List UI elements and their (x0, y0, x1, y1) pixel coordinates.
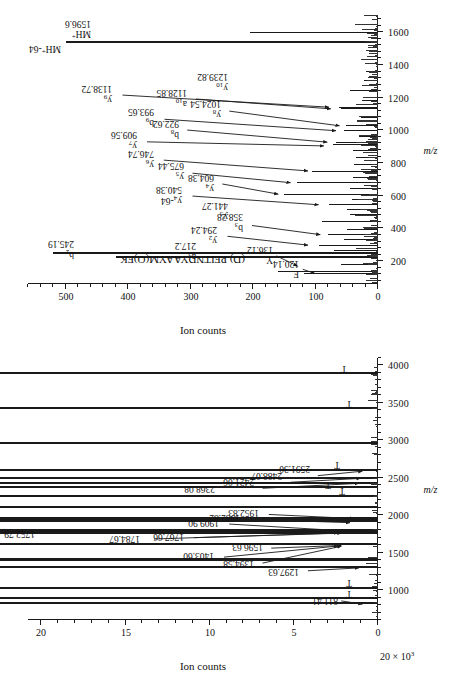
spectrum-noise-peak (376, 26, 378, 27)
x-axis-minor-tick (378, 208, 381, 209)
spectrum-noise-peak (373, 375, 378, 376)
spectrum-noise-peak (376, 251, 378, 252)
x-axis-minor-tick (378, 221, 381, 222)
x-axis-minor-tick (378, 84, 381, 85)
spectrum-noise-peak (366, 50, 378, 51)
x-axis-tick-label: 600 (391, 190, 407, 201)
spectrum-noise-peak (375, 236, 378, 237)
spectrum-noise-peak (375, 371, 378, 372)
spectrum-peak (339, 107, 378, 108)
x-axis-minor-tick (378, 559, 381, 560)
x-axis-minor-tick (378, 357, 381, 358)
annotation-arrow (271, 545, 341, 548)
spectrum-noise-peak (371, 182, 378, 183)
x-axis-minor-tick (378, 522, 381, 523)
peak-annotation-label: b8922.62 (152, 118, 178, 139)
spectrum-noise-peak (373, 478, 378, 479)
peak-annotation-label: Y136.12 (247, 245, 273, 264)
y-axis-minor-tick (52, 284, 53, 287)
spectrum-noise-peak (371, 89, 378, 90)
spectrum-noise-peak (363, 152, 378, 153)
y-axis-tick-label: 5 (291, 627, 296, 638)
y-axis-minor-tick (290, 284, 291, 287)
spectrum-noise-peak (369, 157, 378, 158)
spectrum-noise-peak (377, 22, 378, 23)
spectrum-noise-peak (375, 379, 378, 380)
spectrum-noise-peak (376, 471, 379, 472)
spectrum-noise-peak (376, 16, 378, 17)
spectrum-noise-peak (376, 391, 378, 392)
spectrum-peak (341, 108, 379, 109)
spectrum-peak (0, 495, 378, 497)
y-axis-minor-tick (202, 284, 203, 287)
x-axis-minor-tick (378, 379, 381, 380)
peak-annotation-label: 1403.60 (183, 551, 214, 561)
spectrum-noise-peak (374, 87, 379, 88)
spectrum-noise-peak (375, 44, 378, 45)
y-axis-minor-tick (276, 620, 277, 623)
spectrum-noise-peak (377, 571, 378, 572)
spectrum-noise-peak (372, 408, 378, 409)
annotation-arrow (164, 160, 308, 171)
spectrum-noise-peak (375, 127, 378, 128)
x-axis-minor-tick (378, 567, 381, 568)
annotation-arrow (222, 184, 278, 194)
spectrum-noise-peak (377, 248, 378, 249)
spectrum-noise-peak (375, 168, 378, 169)
x-axis-minor-tick (378, 544, 381, 545)
x-axis-minor-tick (378, 18, 381, 19)
spectrum-noise-peak (374, 367, 378, 368)
x-axis-minor-tick (378, 142, 381, 143)
y-axis-tick-label: 10 (205, 627, 215, 638)
spectrum-noise-peak (371, 186, 378, 187)
spectrum-noise-peak (377, 515, 378, 516)
spectrum-noise-peak (373, 546, 378, 547)
spectrum-peak (329, 205, 378, 206)
x-axis-tick-label: 800 (391, 158, 407, 169)
spectrum-noise-peak (377, 535, 378, 536)
y-axis-minor-tick (141, 620, 142, 623)
y-axis-tick-label: 20 (36, 627, 46, 638)
spectrum-noise-peak (377, 214, 378, 215)
x-axis-major-tick (378, 129, 383, 130)
spectrum-noise-peak (365, 63, 378, 64)
spectrum-noise-peak (376, 147, 378, 148)
x-axis-tick-label: 1200 (388, 92, 409, 103)
spectrum-noise-peak (377, 255, 378, 256)
spectrum-peak (0, 372, 378, 374)
spectrum-noise-peak (377, 404, 378, 405)
peak-annotation-label: MH+1596.6 (65, 19, 91, 39)
y-axis-minor-tick (192, 620, 193, 623)
peak-annotation-label: a101128.85 (157, 87, 188, 108)
x-axis-tick-label: 200 (391, 256, 407, 267)
spectrum-noise-peak (377, 130, 378, 131)
peak-annotation-label: 1752.79 (4, 528, 35, 538)
x-axis-minor-tick (378, 492, 381, 493)
spectrum-noise-peak (371, 254, 378, 255)
x-axis-tick-label: 1600 (388, 27, 409, 38)
spectrum-noise-peak (377, 150, 378, 151)
peak-annotation-label: 1767.66 (153, 531, 184, 541)
y-axis-minor-tick (327, 284, 328, 287)
spectrum-noise-peak (371, 170, 378, 171)
spectrum-noise-peak (372, 221, 378, 222)
x-axis-minor-tick (378, 454, 381, 455)
spectrum-noise-peak (373, 512, 378, 513)
y-axis-minor-tick (265, 284, 266, 287)
spectrum-noise-peak (376, 66, 378, 67)
peak-annotation-label: y2294.24 (191, 224, 217, 245)
peak-annotation-label: 811.41 (312, 596, 338, 606)
peak-annotation-label: y7909.56 (110, 129, 136, 150)
x-axis-minor-tick (378, 409, 381, 410)
spectrum-peak (334, 250, 378, 251)
plot-area-b: 2004006008001000120014001600m/z010020030… (28, 16, 378, 284)
spectrum-peak (66, 41, 379, 43)
x-axis-minor-tick (378, 175, 381, 176)
peak-annotation-label: 2488.07 (251, 470, 282, 480)
spectrum-noise-peak (369, 91, 378, 92)
plot-area-a: 1000150020002500300035004000m/z05101520I… (28, 358, 378, 620)
annotation-arrow (194, 533, 341, 537)
spectrum-noise-peak (377, 110, 378, 111)
spectrum-noise-peak (375, 595, 378, 596)
peak-annotation-label: 1952.83 (228, 507, 259, 517)
